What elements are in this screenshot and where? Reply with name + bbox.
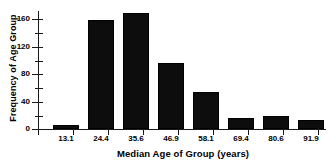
bar-13.1 xyxy=(53,125,79,128)
x-tick-0 xyxy=(38,130,39,135)
y-tick-label-40: 40 xyxy=(4,98,30,106)
x-tick-label-0: 13.1 xyxy=(46,134,86,143)
bar-46.9 xyxy=(158,63,184,129)
bar-69.4 xyxy=(228,118,254,128)
bar-24.4 xyxy=(88,20,114,129)
y-tick-label-80: 80 xyxy=(4,70,30,78)
bar-58.1 xyxy=(193,92,219,129)
x-tick-label-2: 35.6 xyxy=(116,134,156,143)
y-tick-label-160: 160 xyxy=(4,15,30,23)
x-tick-label-3: 46.9 xyxy=(151,134,191,143)
bar-80.6 xyxy=(263,116,289,129)
x-tick-label-4: 58.1 xyxy=(186,134,226,143)
y-tick-label-0: 0 xyxy=(4,125,30,133)
plot-area xyxy=(38,11,326,130)
histogram-chart: Frequency of Age Group 0 40 80 120 160 1… xyxy=(0,0,336,166)
bar-35.6 xyxy=(123,13,149,129)
x-tick-label-7: 91.9 xyxy=(291,134,331,143)
x-tick-label-5: 69.4 xyxy=(221,134,261,143)
y-axis-tick-labels: 0 40 80 120 160 xyxy=(0,0,30,166)
x-axis-title: Median Age of Group (years) xyxy=(38,148,328,159)
y-tick-label-120: 120 xyxy=(4,43,30,51)
x-tick-label-6: 80.6 xyxy=(256,134,296,143)
x-tick-label-1: 24.4 xyxy=(81,134,121,143)
bar-91.9 xyxy=(298,120,324,129)
